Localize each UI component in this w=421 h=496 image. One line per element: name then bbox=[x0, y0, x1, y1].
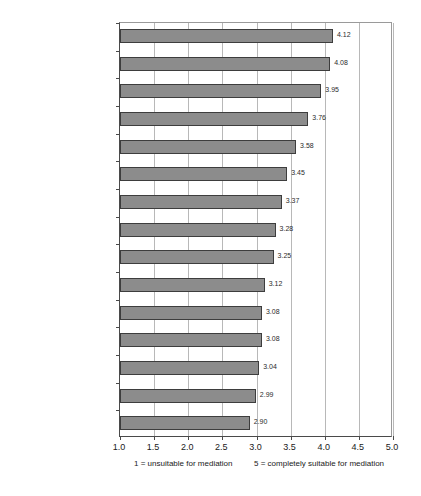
bar-row: gay and gender issue2.99 bbox=[120, 383, 391, 411]
bar bbox=[120, 389, 256, 403]
footnote-scale-high: 5 = completely suitable for mediation bbox=[254, 459, 384, 468]
x-axis-tick bbox=[120, 436, 121, 440]
y-axis-tick bbox=[116, 410, 120, 411]
x-axis-tick bbox=[393, 436, 394, 440]
y-axis-tick bbox=[116, 161, 120, 162]
bar-value-label: 3.04 bbox=[263, 360, 277, 374]
bar-value-label: 3.58 bbox=[300, 139, 314, 153]
y-axis-tick bbox=[116, 217, 120, 218]
bar bbox=[120, 278, 265, 292]
bar-chart: personality conflict4.12employment/work4… bbox=[0, 0, 421, 496]
y-axis-tick bbox=[116, 272, 120, 273]
bar-value-label: 3.37 bbox=[286, 194, 300, 208]
bar bbox=[120, 361, 259, 375]
bar-row: employment/work4.08 bbox=[120, 51, 391, 79]
y-axis-tick bbox=[116, 23, 120, 24]
bar bbox=[120, 250, 274, 264]
bar bbox=[120, 416, 250, 430]
bar-row: property ownership3.58 bbox=[120, 134, 391, 162]
bar-value-label: 3.08 bbox=[266, 332, 280, 346]
bar bbox=[120, 140, 296, 154]
x-axis-tick bbox=[325, 436, 326, 440]
bar-row: taxation3.04 bbox=[120, 355, 391, 383]
bar-row: racial discrimination3.28 bbox=[120, 217, 391, 245]
bar bbox=[120, 29, 333, 43]
footnote-scale-low: 1 = unsuitable for mediation bbox=[134, 459, 233, 468]
bar bbox=[120, 195, 282, 209]
y-axis-tick bbox=[116, 189, 120, 190]
bar-row: defamation3.08 bbox=[120, 327, 391, 355]
bar-row: worship/doctrine2.90 bbox=[120, 410, 391, 438]
bar-row: personal injury3.12 bbox=[120, 272, 391, 300]
bar-value-label: 3.76 bbox=[312, 111, 326, 125]
bar-value-label: 3.95 bbox=[325, 83, 339, 97]
bar-row: minor discipline3.08 bbox=[120, 300, 391, 328]
bar-row: financial (non-criminal)3.45 bbox=[120, 161, 391, 189]
bar-row: pastoral breakdown3.95 bbox=[120, 78, 391, 106]
bar-value-label: 3.45 bbox=[291, 166, 305, 180]
x-axis-tick bbox=[222, 436, 223, 440]
bar-value-label: 2.90 bbox=[254, 415, 268, 429]
x-axis-tick bbox=[359, 436, 360, 440]
bar-row: personality conflict4.12 bbox=[120, 23, 391, 51]
gridline bbox=[393, 23, 394, 436]
x-axis-tick bbox=[188, 436, 189, 440]
y-axis-tick bbox=[116, 78, 120, 79]
bar-row: church buildings3.25 bbox=[120, 244, 391, 272]
bar bbox=[120, 223, 276, 237]
bar bbox=[120, 306, 262, 320]
plot-area: personality conflict4.12employment/work4… bbox=[119, 22, 392, 437]
y-axis-tick bbox=[116, 244, 120, 245]
y-axis-tick bbox=[116, 327, 120, 328]
x-axis-tick bbox=[291, 436, 292, 440]
bar-value-label: 4.12 bbox=[337, 28, 351, 42]
bar-value-label: 4.08 bbox=[334, 56, 348, 70]
bar-value-label: 3.12 bbox=[269, 277, 283, 291]
y-axis-tick bbox=[116, 355, 120, 356]
bar bbox=[120, 57, 330, 71]
bar bbox=[120, 333, 262, 347]
bar-row: church governance3.76 bbox=[120, 106, 391, 134]
y-axis-tick bbox=[116, 134, 120, 135]
bar-value-label: 3.28 bbox=[280, 222, 294, 236]
y-axis-tick bbox=[116, 300, 120, 301]
bar bbox=[120, 112, 308, 126]
y-axis-tick bbox=[116, 106, 120, 107]
y-axis-tick bbox=[116, 51, 120, 52]
x-axis-tick-label: 5.0 bbox=[372, 442, 412, 452]
bar-row: contractual3.37 bbox=[120, 189, 391, 217]
bar bbox=[120, 167, 287, 181]
x-axis-tick bbox=[154, 436, 155, 440]
bar-value-label: 2.99 bbox=[260, 388, 274, 402]
x-axis-tick bbox=[257, 436, 258, 440]
bar-value-label: 3.08 bbox=[266, 305, 280, 319]
bar-rows: personality conflict4.12employment/work4… bbox=[120, 23, 391, 436]
bar-value-label: 3.25 bbox=[278, 249, 292, 263]
bar bbox=[120, 84, 321, 98]
y-axis-tick bbox=[116, 383, 120, 384]
